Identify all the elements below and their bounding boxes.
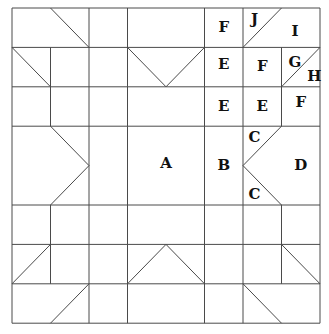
pattern-line bbox=[12, 47, 51, 86]
pattern-line bbox=[166, 244, 205, 283]
pattern-line bbox=[243, 8, 282, 47]
piece-label-f: F bbox=[218, 18, 229, 36]
piece-label-f: F bbox=[295, 93, 306, 111]
piece-label-e: E bbox=[257, 97, 268, 115]
pattern-line bbox=[128, 244, 167, 283]
piece-label-e: E bbox=[218, 55, 229, 73]
piece-label-e: E bbox=[218, 97, 229, 115]
piece-label-j: J bbox=[249, 10, 258, 28]
piece-label-c: C bbox=[249, 128, 261, 146]
pattern-line bbox=[51, 126, 90, 165]
pattern-line bbox=[282, 244, 321, 283]
pattern-line bbox=[12, 244, 51, 283]
pattern-line bbox=[166, 47, 205, 86]
piece-label-c: C bbox=[249, 185, 261, 203]
piece-label-a: A bbox=[159, 154, 172, 172]
piece-label-h: H bbox=[307, 67, 321, 85]
quilt-block-diagram: FJIEFGHEEFCABDC bbox=[0, 0, 329, 334]
pattern-line bbox=[51, 284, 90, 323]
pattern-line bbox=[51, 166, 90, 205]
piece-labels: FJIEFGHEEFCABDC bbox=[159, 10, 321, 203]
piece-label-i: I bbox=[291, 22, 298, 40]
pattern-line bbox=[51, 8, 90, 47]
piece-label-b: B bbox=[217, 156, 230, 174]
pattern-line bbox=[128, 47, 167, 86]
piece-label-g: G bbox=[289, 53, 302, 71]
piece-label-f: F bbox=[257, 57, 268, 75]
pattern-line bbox=[243, 284, 282, 323]
piece-label-d: D bbox=[294, 156, 307, 174]
